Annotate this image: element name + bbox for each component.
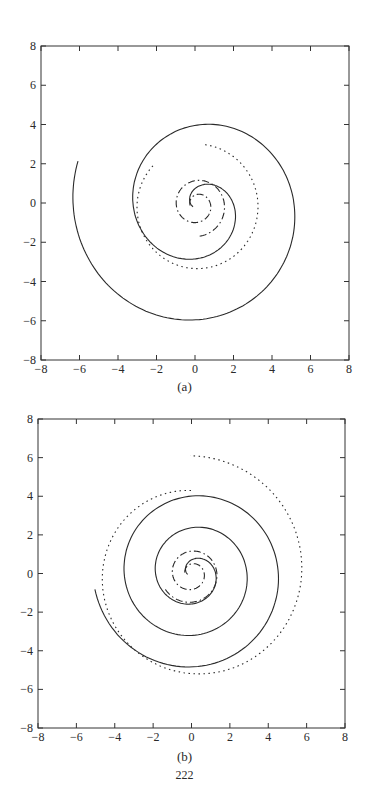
y-tick-label: 8: [27, 412, 33, 426]
y-tick-label: 6: [27, 451, 33, 465]
y-tick-label: −6: [20, 682, 33, 696]
x-tick-label: 8: [342, 730, 348, 744]
x-tick-label: 0: [189, 730, 195, 744]
axes-frame: [38, 419, 345, 728]
caption-b: (b): [0, 749, 369, 765]
x-tick-label: −2: [147, 730, 160, 744]
x-tick-label: 2: [227, 730, 233, 744]
y-tick-label: −8: [20, 721, 33, 735]
plot-b: −8−6−4−202468−8−6−4−202468: [0, 0, 369, 802]
y-tick-label: 2: [27, 528, 33, 542]
y-tick-label: 4: [27, 489, 33, 503]
y-tick-label: 0: [27, 567, 33, 581]
x-tick-label: −8: [32, 730, 45, 744]
y-tick-label: −2: [20, 605, 33, 619]
y-tick-label: −4: [20, 644, 33, 658]
series-dashdot: [164, 551, 217, 602]
page-number: 222: [0, 768, 369, 783]
x-tick-label: −4: [108, 730, 121, 744]
x-tick-label: 6: [304, 730, 310, 744]
x-tick-label: 4: [265, 730, 271, 744]
x-tick-label: −6: [70, 730, 83, 744]
series-solid: [95, 496, 279, 667]
series-dotted: [102, 456, 301, 674]
